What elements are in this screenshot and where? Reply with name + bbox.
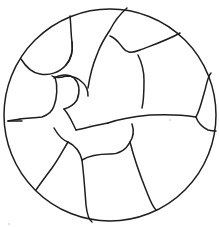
cell-boundary-line (108, 115, 196, 123)
cell-boundary-line (82, 124, 133, 160)
cell-boundary-line (54, 128, 82, 160)
cell-boundary-line (64, 109, 76, 130)
speck-dot (169, 119, 171, 121)
cell-boundary-line (138, 55, 144, 108)
cell-boundary-line (88, 8, 127, 88)
cell-boundary-line (66, 42, 72, 65)
paper-specks (8, 119, 171, 225)
cell-boundary-line (130, 142, 156, 210)
cell-boundary-line (36, 142, 68, 190)
cell-boundary-line (76, 123, 108, 130)
cell-boundary-line (110, 33, 180, 52)
cell-boundary-line (82, 160, 92, 222)
cell-boundary-line (196, 117, 216, 131)
figure-svg (0, 0, 219, 227)
speck-dot (8, 223, 10, 225)
cell-boundary-line (196, 73, 211, 117)
speck-dot (89, 124, 91, 126)
cell-pattern-figure (0, 0, 219, 227)
cell-boundary-line (54, 75, 79, 109)
cell-boundary-line (20, 77, 57, 119)
cell-boundary-line (21, 16, 72, 75)
